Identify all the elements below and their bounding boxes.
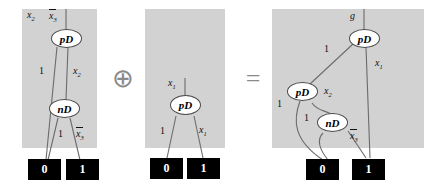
terminal-zero-result[interactable]: 0 [306, 159, 339, 180]
terminal-one-operand-b[interactable]: 1 [187, 158, 220, 179]
node-label: pD [60, 33, 73, 45]
decision-diagram-figure: x2 x3 pD 1 x2 nD 1 x3 0 1 ⊕ x1 pD 1 x1 [0, 0, 424, 185]
terminal-zero-operand-b[interactable]: 0 [150, 158, 183, 179]
terminal-label: 1 [80, 162, 86, 177]
terminal-label: 0 [42, 162, 48, 177]
node-nd-operand-a[interactable]: nD [49, 99, 80, 118]
node-pd-left-result[interactable]: pD [287, 82, 318, 101]
node-label: pD [296, 86, 309, 98]
edge-label-a-1: 1 [39, 66, 44, 76]
terminal-label: 1 [366, 162, 372, 177]
edge-label-a-x2: x2 [73, 66, 81, 79]
node-label: pD [179, 99, 192, 111]
edge-label-c-1-root: 1 [324, 44, 329, 54]
edge-label-b-x1: x1 [199, 125, 207, 138]
terminal-label: 0 [164, 161, 170, 176]
edge-label-c-1-left: 1 [277, 99, 282, 109]
edge-label-c-x2: x2 [324, 86, 332, 99]
node-nd-result[interactable]: nD [317, 113, 348, 132]
node-pd-root-result[interactable]: pD [349, 29, 380, 48]
terminal-one-result[interactable]: 1 [352, 159, 385, 180]
node-label: nD [325, 117, 339, 129]
top-label-x1-operand-b: x1 [168, 78, 176, 91]
top-label-x2: x2 [27, 10, 35, 23]
edge-label-b-1: 1 [160, 126, 165, 136]
terminal-zero-operand-a[interactable]: 0 [28, 159, 61, 180]
top-label-x3-bar: x3 [49, 10, 57, 24]
edge-label-c-x3-bar: x3 [350, 130, 358, 144]
edge-label-a-1-lower: 1 [58, 129, 63, 139]
terminal-label: 1 [201, 161, 207, 176]
node-label: pD [358, 33, 371, 45]
terminal-label: 0 [320, 162, 326, 177]
terminal-one-operand-a[interactable]: 1 [66, 159, 99, 180]
node-pd-operand-b[interactable]: pD [170, 95, 201, 115]
top-label-g: g [350, 11, 355, 21]
node-pd-operand-a[interactable]: pD [51, 29, 82, 48]
edge-label-c-1-nd: 1 [304, 113, 309, 123]
edge-label-c-x1: x1 [375, 58, 383, 71]
node-label: nD [57, 103, 71, 115]
edge-label-a-x3-bar: x3 [76, 128, 84, 142]
